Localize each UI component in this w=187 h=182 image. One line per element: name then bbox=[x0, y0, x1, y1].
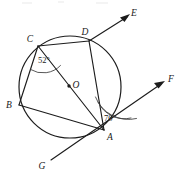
point-label-d: D bbox=[81, 27, 89, 37]
chord-cb bbox=[19, 46, 38, 105]
point-label-f: F bbox=[167, 74, 174, 84]
ray-de bbox=[89, 17, 127, 41]
angle-arc-c bbox=[31, 66, 61, 74]
angle-label-c: 52° bbox=[38, 55, 50, 65]
point-label-c: C bbox=[27, 34, 34, 44]
point-label-a: A bbox=[106, 132, 113, 142]
center-point-dot bbox=[67, 84, 70, 87]
point-label-o: O bbox=[73, 80, 80, 90]
chord-ba bbox=[19, 105, 104, 130]
geometry-figure: A B C D O E F G 52° 70° bbox=[0, 0, 187, 182]
chord-da bbox=[89, 41, 104, 130]
point-label-g: G bbox=[39, 161, 46, 171]
geometry-canvas: A B C D O E F G 52° 70° bbox=[0, 0, 187, 182]
angle-label-a: 70° bbox=[104, 113, 116, 123]
point-label-e: E bbox=[130, 8, 137, 18]
point-label-b: B bbox=[6, 100, 12, 110]
